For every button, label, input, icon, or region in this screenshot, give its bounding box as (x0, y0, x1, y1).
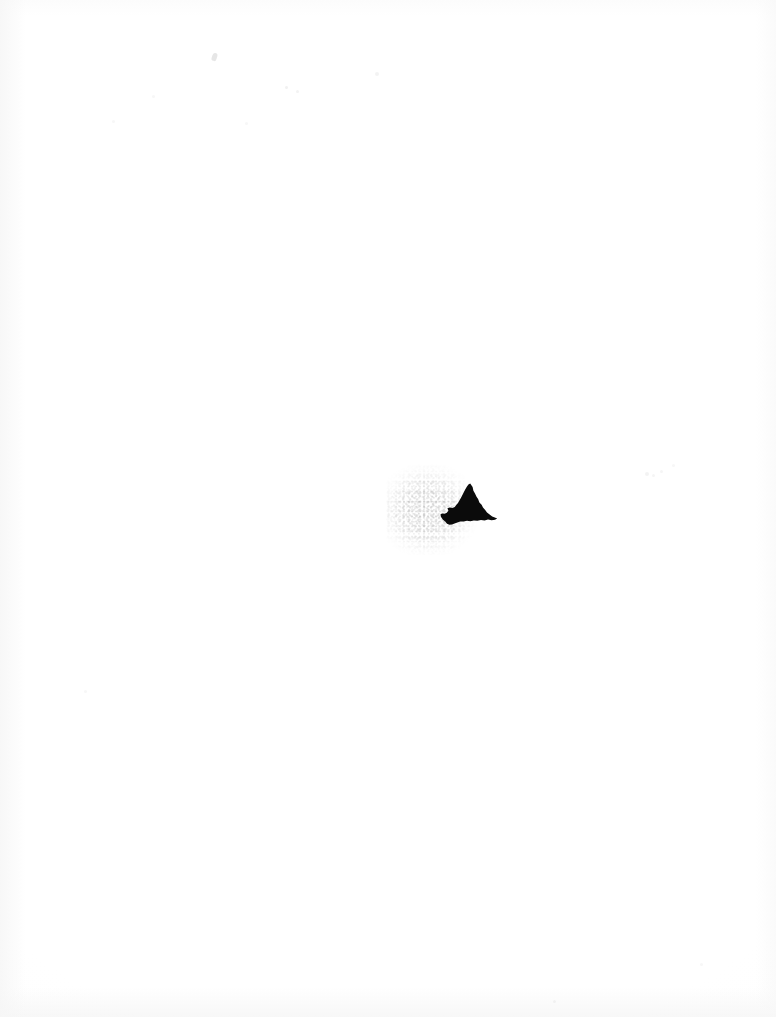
scanned-page (0, 0, 776, 1017)
dust-speck (700, 963, 703, 966)
dust-speck (553, 1000, 556, 1003)
dust-speck (152, 95, 155, 98)
dark-blot-path (440, 483, 497, 524)
paper-tone-overlay (0, 0, 776, 1017)
scan-edge-shading (0, 0, 776, 1017)
speckle-grain-layer-c (385, 462, 477, 555)
dust-speck (296, 90, 299, 93)
speckle-grain-layer-b (385, 462, 477, 555)
speckle-cloud (385, 462, 477, 555)
dark-triangular-blot (440, 483, 498, 528)
speckle-grain-layer-a (385, 462, 477, 555)
dust-speck (245, 122, 248, 125)
tick-mark-speck (211, 52, 218, 61)
dust-speck (285, 86, 288, 89)
dust-speck (652, 474, 655, 477)
dust-speck (645, 472, 649, 476)
dust-speck (672, 464, 675, 467)
dark-blot-svg (440, 483, 498, 528)
dust-speck (375, 72, 379, 76)
dust-speck (112, 120, 115, 123)
dust-speck (660, 470, 663, 473)
dust-speck (84, 690, 87, 693)
